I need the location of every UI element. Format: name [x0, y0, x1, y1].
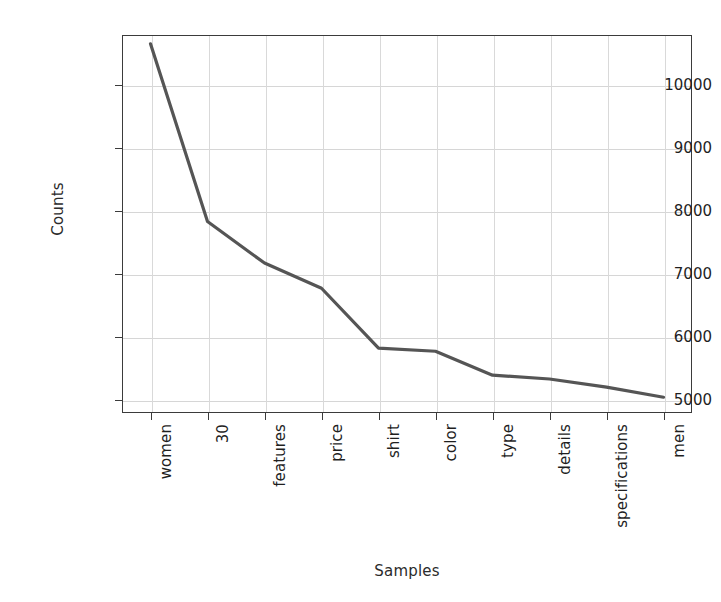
- y-tick-label: 9000: [613, 139, 721, 157]
- gridline-vertical: [209, 36, 210, 412]
- y-tick-mark: [115, 274, 122, 275]
- x-tick-mark: [322, 413, 323, 420]
- y-tick-label: 6000: [613, 328, 721, 346]
- gridline-vertical: [551, 36, 552, 412]
- x-tick-mark: [379, 413, 380, 420]
- gridline-vertical: [494, 36, 495, 412]
- x-tick-mark: [550, 413, 551, 420]
- x-tick-mark: [151, 413, 152, 420]
- gridline-vertical: [323, 36, 324, 412]
- y-axis-title: Counts: [49, 149, 67, 269]
- x-tick-label: color: [442, 424, 460, 461]
- x-tick-label: type: [499, 424, 517, 458]
- y-tick-label: 10000: [613, 76, 721, 94]
- y-tick-mark: [115, 85, 122, 86]
- gridline-vertical: [152, 36, 153, 412]
- x-axis-title: Samples: [122, 562, 692, 580]
- plot-area: [122, 35, 692, 413]
- x-tick-mark: [607, 413, 608, 420]
- y-tick-mark: [115, 211, 122, 212]
- x-tick-mark: [208, 413, 209, 420]
- x-tick-label: women: [157, 424, 175, 479]
- y-tick-mark: [115, 400, 122, 401]
- gridline-vertical: [437, 36, 438, 412]
- x-tick-mark: [664, 413, 665, 420]
- x-tick-mark: [265, 413, 266, 420]
- x-tick-label: specifications: [613, 424, 631, 528]
- y-tick-label: 8000: [613, 202, 721, 220]
- x-tick-label: shirt: [385, 424, 403, 458]
- line-chart-figure: Counts 5000600070008000900010000women30f…: [0, 0, 721, 602]
- x-tick-label: price: [328, 424, 346, 462]
- gridline-vertical: [380, 36, 381, 412]
- x-tick-label: 30: [214, 424, 232, 443]
- x-tick-mark: [493, 413, 494, 420]
- x-tick-label: men: [670, 424, 688, 458]
- gridline-vertical: [266, 36, 267, 412]
- y-tick-mark: [115, 337, 122, 338]
- x-tick-mark: [436, 413, 437, 420]
- x-tick-label: features: [271, 424, 289, 487]
- y-tick-label: 7000: [613, 265, 721, 283]
- y-tick-label: 5000: [613, 391, 721, 409]
- x-tick-label: details: [556, 424, 574, 475]
- gridline-vertical: [608, 36, 609, 412]
- y-tick-mark: [115, 148, 122, 149]
